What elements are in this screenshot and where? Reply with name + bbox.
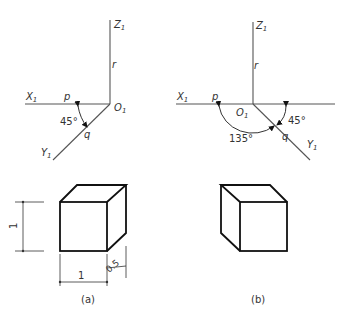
- r-label-b: r: [254, 60, 259, 71]
- q-label-b: q: [282, 131, 288, 142]
- x-axis-label-a: X1: [25, 91, 37, 104]
- q-label-a: q: [84, 129, 90, 140]
- angle-label-135-b: 135°: [229, 133, 253, 144]
- cube-a: [60, 185, 126, 251]
- y-axis-a: [53, 104, 110, 160]
- oblique-axonometric-figure: Z1 r X1 p O1 45° q Y1 Z1 r X1 p O1 45° 1…: [0, 0, 353, 320]
- origin-label-a: O1: [114, 102, 126, 115]
- p-label-b: p: [211, 91, 218, 102]
- width-dim-label: 1: [78, 270, 84, 281]
- angle-label-45-a: 45°: [60, 116, 78, 127]
- cube-b-front-face: [240, 202, 287, 251]
- angle-arc-45-a: [78, 106, 87, 127]
- z-axis-label-b: Z1: [255, 20, 267, 33]
- cube-a-right-face: [107, 185, 126, 251]
- cube-b-top-face: [221, 185, 287, 202]
- y-axis-label-a: Y1: [41, 147, 52, 160]
- p-label-a: p: [63, 91, 70, 102]
- height-dim-label: 1: [8, 223, 19, 229]
- z-axis-label-a: Z1: [113, 19, 125, 32]
- caption-a: (a): [81, 294, 95, 305]
- angle-arc-45-b: [277, 106, 286, 125]
- y-axis-label-b: Y1: [307, 139, 318, 152]
- cube-a-dimensions: 1 1 0.5: [8, 202, 126, 286]
- r-label-a: r: [112, 59, 117, 70]
- origin-label-b: O1: [236, 107, 248, 120]
- cube-b-left-face: [221, 185, 240, 251]
- cube-b: [221, 185, 287, 251]
- axes-diagram-a: Z1 r X1 p O1 45° q Y1: [25, 19, 126, 160]
- cube-a-front-face: [60, 202, 107, 251]
- x-axis-label-b: X1: [176, 91, 188, 104]
- angle-label-45-b: 45°: [288, 115, 306, 126]
- caption-b: (b): [251, 294, 265, 305]
- axes-diagram-b: Z1 r X1 p O1 45° 135° q Y1: [176, 20, 335, 160]
- cube-a-top-face: [60, 185, 126, 202]
- depth-dim-label: 0.5: [104, 258, 121, 275]
